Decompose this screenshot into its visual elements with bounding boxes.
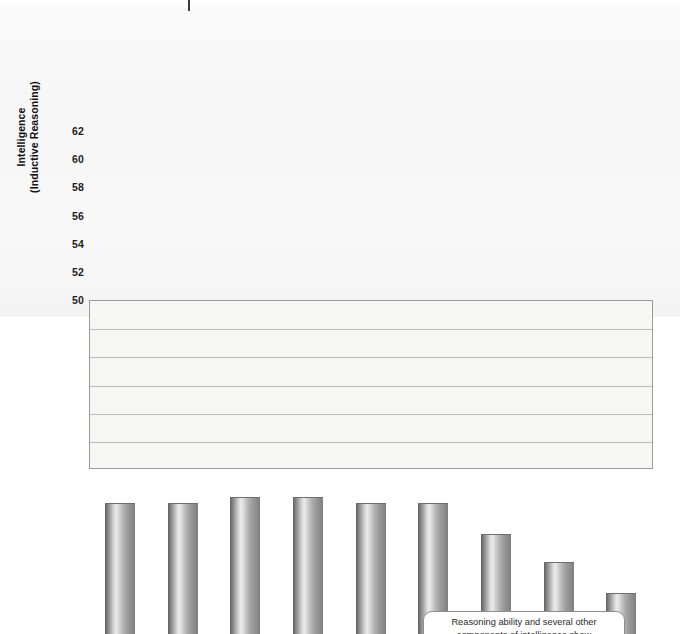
y-tick-label: 50	[58, 294, 84, 306]
plot-area	[89, 300, 653, 469]
y-axis-title-line-1: Intelligence	[15, 108, 28, 167]
bar-slot	[152, 469, 215, 634]
bar-39[interactable]	[230, 497, 260, 634]
annotation-text: Reasoning ability and several other comp…	[445, 616, 602, 634]
gridline	[90, 357, 652, 358]
y-axis-title-line-2: (Inductive Reasoning)	[28, 81, 41, 193]
bar-32[interactable]	[168, 503, 198, 634]
bar-slot	[528, 469, 591, 634]
bar-slot	[277, 469, 340, 634]
y-tick-label: 56	[58, 210, 84, 222]
y-tick-label: 58	[58, 181, 84, 193]
y-tick-label: 54	[58, 238, 84, 250]
y-tick-label: 60	[58, 153, 84, 165]
bar-slot	[214, 469, 277, 634]
gridline	[90, 329, 652, 330]
bar-slot	[465, 469, 528, 634]
scan-edge-artifact	[188, 0, 190, 11]
bar-53[interactable]	[356, 503, 386, 634]
bar-slot	[89, 469, 152, 634]
y-axis-title: Intelligence (Inductive Reasoning)	[10, 52, 46, 222]
y-axis-ticks: 62 60 58 56 54 52 50	[54, 131, 84, 300]
bar-slot	[340, 469, 403, 634]
bar-25[interactable]	[105, 503, 135, 634]
bar-series	[89, 469, 653, 634]
gridline	[90, 386, 652, 387]
y-tick-label: 62	[58, 125, 84, 137]
bar-slot	[590, 469, 653, 634]
gridline	[90, 442, 652, 443]
y-tick-label: 52	[58, 266, 84, 278]
bar-46[interactable]	[293, 497, 323, 634]
gridline	[90, 414, 652, 415]
bar-slot	[402, 469, 465, 634]
annotation-line-2: components of intelligence show	[451, 629, 596, 634]
annotation-callout: Reasoning ability and several other comp…	[423, 611, 625, 634]
annotation-line-1: Reasoning ability and several other	[451, 616, 596, 629]
